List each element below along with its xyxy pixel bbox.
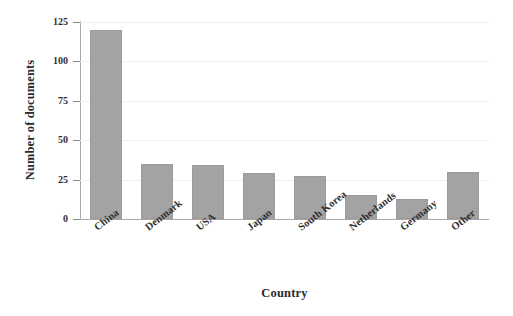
- y-tick-mark: [73, 140, 80, 141]
- bar: [192, 165, 224, 219]
- y-tick-label: 75: [40, 95, 68, 106]
- y-tick-label: 50: [40, 134, 68, 145]
- x-axis-line: [80, 219, 489, 220]
- x-axis-title: Country: [80, 286, 489, 301]
- gridline: [80, 101, 489, 102]
- y-tick-mark: [73, 180, 80, 181]
- gridline: [80, 140, 489, 141]
- y-tick-label: 25: [40, 174, 68, 185]
- y-tick-label: 0: [40, 213, 68, 224]
- bar-chart: Number of documents 0255075100125 ChinaD…: [0, 0, 513, 316]
- y-tick-mark: [73, 101, 80, 102]
- y-tick-mark: [73, 219, 80, 220]
- x-axis-tick-labels: ChinaDenmarkUSAJapanSouth KoreaNetherlan…: [0, 0, 513, 90]
